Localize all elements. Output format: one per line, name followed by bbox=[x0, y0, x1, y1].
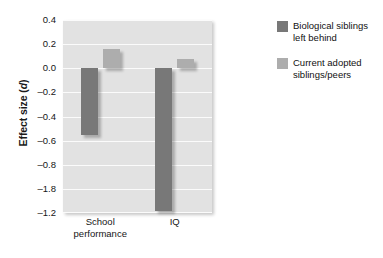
x-axis-tick-label-line: IQ bbox=[125, 216, 225, 228]
chart-figure: Effect size (d) 0.40.20.0–0.2–0.4–0.6–0.… bbox=[0, 0, 383, 258]
legend-entry[interactable]: Biological siblingsleft behind bbox=[277, 20, 383, 44]
bar bbox=[155, 68, 172, 210]
gridline bbox=[63, 44, 212, 45]
legend-swatch-icon bbox=[277, 21, 288, 32]
legend-label-line: Current adopted bbox=[293, 57, 383, 69]
x-axis-tick-labels: SchoolperformanceIQ bbox=[63, 216, 212, 256]
x-axis-tick-label-line: performance bbox=[50, 228, 150, 240]
y-axis-tick-label: –0.2 bbox=[16, 87, 56, 97]
gridline bbox=[63, 189, 212, 190]
y-axis-tick-label: –1.8 bbox=[16, 184, 56, 194]
legend-entry[interactable]: Current adoptedsiblings/peers bbox=[277, 57, 383, 81]
y-axis-tick-label: 0.2 bbox=[16, 39, 56, 49]
legend-label-line: siblings/peers bbox=[293, 69, 383, 81]
x-axis-tick-label: IQ bbox=[125, 216, 225, 228]
y-axis-tick-label: 0.0 bbox=[16, 63, 56, 73]
legend-label-line: left behind bbox=[293, 32, 383, 44]
legend-label: Biological siblingsleft behind bbox=[293, 20, 383, 43]
y-axis-tick-label: –0.4 bbox=[16, 112, 56, 122]
legend-label: Current adoptedsiblings/peers bbox=[293, 57, 383, 80]
bar bbox=[81, 68, 98, 134]
bar bbox=[103, 49, 120, 68]
legend-swatch-icon bbox=[277, 58, 288, 69]
gridline bbox=[63, 165, 212, 166]
plot-area bbox=[63, 20, 212, 213]
gridline bbox=[63, 141, 212, 142]
y-axis-tick-label: –0.6 bbox=[16, 136, 56, 146]
gridline bbox=[63, 212, 212, 213]
y-axis-tick-label: 0.4 bbox=[16, 15, 56, 25]
legend: Biological siblingsleft behindCurrent ad… bbox=[277, 20, 383, 94]
bar bbox=[177, 59, 194, 69]
gridline bbox=[63, 20, 212, 21]
y-axis-tick-labels: 0.40.20.0–0.2–0.4–0.6–0.8–1.8–1.2 bbox=[18, 20, 60, 213]
legend-label-line: Biological siblings bbox=[293, 20, 383, 32]
y-axis-tick-label: –0.8 bbox=[16, 160, 56, 170]
